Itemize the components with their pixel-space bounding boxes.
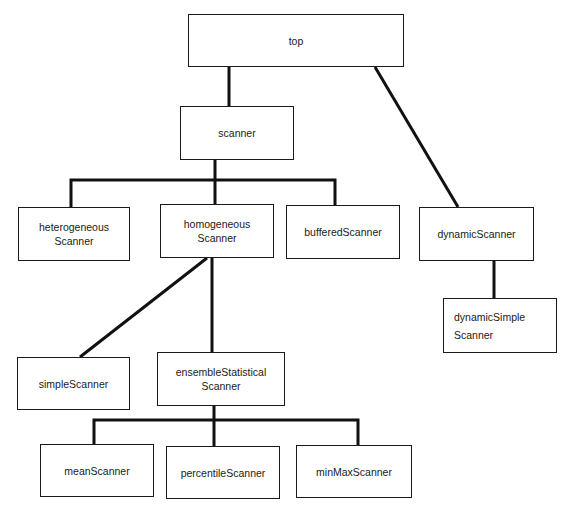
node-label: bufferedScanner (304, 225, 381, 239)
node-minmax-scanner: minMaxScanner (296, 445, 412, 498)
node-label: dynamicSimple Scanner (454, 308, 525, 344)
node-label: meanScanner (64, 464, 129, 478)
node-dynamic-scanner: dynamicScanner (419, 207, 534, 261)
edge-scanner-children (71, 180, 335, 207)
edge-homogeneous-simple (80, 258, 207, 357)
node-percentile-scanner: percentileScanner (166, 446, 280, 499)
node-buffered-scanner: bufferedScanner (286, 205, 400, 259)
node-mean-scanner: meanScanner (40, 444, 154, 497)
node-label: dynamicScanner (437, 227, 515, 241)
node-dynamic-simple-scanner: dynamicSimple Scanner (443, 298, 557, 353)
hierarchy-diagram: top scanner heterogeneous Scanner homoge… (0, 0, 576, 514)
node-scanner: scanner (180, 106, 294, 160)
node-label: top (289, 34, 304, 48)
node-label: ensembleStatistical Scanner (176, 365, 266, 393)
node-label: minMaxScanner (316, 465, 392, 479)
node-label: scanner (218, 126, 255, 140)
node-label: simpleScanner (39, 377, 108, 391)
node-homogeneous-scanner: homogeneous Scanner (160, 204, 274, 258)
node-label: homogeneous Scanner (184, 217, 251, 245)
edge-ensemble-children (94, 420, 358, 445)
edge-top-dynamicscanner (375, 67, 458, 207)
node-heterogeneous-scanner: heterogeneous Scanner (18, 207, 130, 261)
node-simple-scanner: simpleScanner (17, 357, 130, 410)
node-label: heterogeneous Scanner (39, 220, 109, 248)
node-label: percentileScanner (181, 466, 266, 480)
node-ensemble-statistical-scanner: ensembleStatistical Scanner (157, 352, 285, 406)
node-top: top (188, 14, 404, 67)
